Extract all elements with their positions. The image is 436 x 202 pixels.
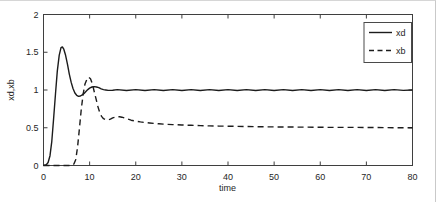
x-tick-label: 40 (223, 172, 233, 182)
y-tick-label: 1 (33, 85, 38, 95)
x-tick-label: 60 (315, 172, 325, 182)
series-xb-line (44, 77, 413, 165)
x-tick-label: 0 (41, 172, 46, 182)
timeseries-chart: 0102030405060708000.511.52xdxb (0, 1, 436, 202)
x-tick-label: 20 (131, 172, 141, 182)
x-tick-label: 10 (85, 172, 95, 182)
legend-xb-label: xb (396, 46, 406, 56)
y-tick-label: 0.5 (26, 123, 39, 133)
x-tick-label: 30 (177, 172, 187, 182)
legend-xd-label: xd (396, 28, 406, 38)
x-axis-label: time (43, 183, 412, 193)
series-xd-line (44, 47, 413, 166)
x-tick-label: 70 (361, 172, 371, 182)
x-tick-label: 80 (407, 172, 417, 182)
y-tick-label: 1.5 (26, 47, 39, 57)
y-tick-label: 2 (33, 10, 38, 20)
figure-window: 0102030405060708000.511.52xdxb time xd,x… (0, 0, 436, 202)
y-axis-label: xd,xb (6, 50, 18, 130)
y-tick-label: 0 (33, 161, 38, 171)
x-tick-label: 50 (269, 172, 279, 182)
